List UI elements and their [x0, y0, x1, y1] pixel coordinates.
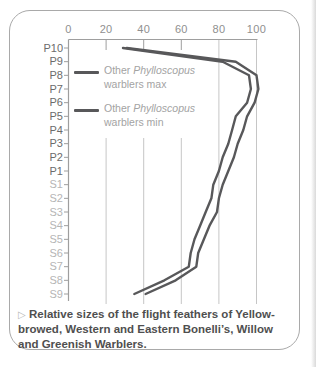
y-category-label-S4: S4 [10, 219, 63, 232]
y-category-label-P7: P7 [10, 83, 63, 96]
legend-line-swatch-max [74, 71, 99, 74]
y-category-label-P6: P6 [10, 96, 63, 109]
caption-text: Relative sizes of the flight feathers of… [18, 308, 275, 350]
x-tick-label-80: 80 [205, 23, 233, 35]
y-category-label-P5: P5 [10, 110, 63, 123]
x-tick-label-60: 60 [167, 23, 195, 35]
y-category-label-S9: S9 [10, 288, 63, 301]
legend-label-max: Other Phylloscopus warblers max [104, 64, 208, 91]
y-category-label-S7: S7 [10, 260, 63, 273]
x-tick-label-100: 100 [243, 23, 271, 35]
x-tick-label-20: 20 [92, 23, 120, 35]
y-category-label-P3: P3 [10, 137, 63, 150]
y-category-label-P1: P1 [10, 165, 63, 178]
y-category-label-P10: P10 [10, 42, 63, 55]
y-category-label-S5: S5 [10, 233, 63, 246]
y-category-label-P4: P4 [10, 124, 63, 137]
y-category-label-S3: S3 [10, 206, 63, 219]
figure-caption: ▷Relative sizes of the flight feathers o… [18, 307, 294, 352]
caption-marker-icon: ▷ [18, 309, 26, 320]
y-category-label-P2: P2 [10, 151, 63, 164]
y-category-label-S2: S2 [10, 192, 63, 205]
y-category-label-S6: S6 [10, 247, 63, 260]
y-category-label-S8: S8 [10, 274, 63, 287]
y-category-label-P9: P9 [10, 55, 63, 68]
x-tick-label-0: 0 [55, 23, 83, 35]
y-category-label-P8: P8 [10, 69, 63, 82]
page-edge-shadow [311, 0, 316, 367]
legend-label-min: Other Phylloscopus warblers min [104, 102, 208, 129]
y-category-label-S1: S1 [10, 178, 63, 191]
x-tick-label-40: 40 [130, 23, 158, 35]
legend-line-swatch-min [74, 109, 99, 112]
figure-card: 020406080100 P10P9P8P7P6P5P4P3P2P1S1S2S3… [9, 10, 300, 350]
